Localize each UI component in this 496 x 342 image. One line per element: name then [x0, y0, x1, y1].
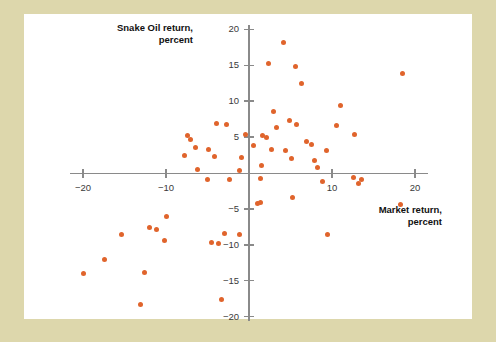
scatter-point	[398, 202, 403, 207]
x-axis-tick-label: 10	[312, 182, 352, 193]
y-axis-tick	[244, 65, 254, 67]
scatter-point	[195, 167, 200, 172]
y-axis-title-line2: percent	[81, 34, 193, 46]
scatter-point	[164, 214, 169, 219]
y-axis-tick-label: −5	[197, 203, 239, 214]
x-axis-tick-label: −20	[63, 182, 103, 193]
x-axis-title-line2: percent	[338, 216, 442, 228]
scatter-plot-canvas: −20−1010202015105−5−10−15−20Snake Oil re…	[24, 14, 472, 319]
scatter-point	[315, 165, 320, 170]
x-axis-title-line1: Market return,	[338, 204, 442, 216]
scatter-point	[119, 232, 124, 237]
y-axis-tick-label: −20	[197, 311, 239, 322]
scatter-point	[325, 232, 330, 237]
scatter-point	[222, 231, 227, 236]
y-axis-title: Snake Oil return,percent	[81, 22, 193, 46]
scatter-point	[274, 125, 279, 130]
scatter-point	[264, 135, 269, 140]
y-axis-tick	[244, 208, 254, 210]
scatter-point	[239, 155, 244, 160]
scatter-point	[237, 168, 242, 173]
scatter-point	[293, 64, 298, 69]
scatter-point	[289, 156, 294, 161]
scatter-point	[338, 103, 343, 108]
x-axis-tick	[331, 169, 333, 178]
x-axis-tick-label: 20	[395, 182, 435, 193]
scatter-point	[334, 123, 339, 128]
y-axis-tick-label: 15	[197, 59, 239, 70]
plot-plate: −20−1010202015105−5−10−15−20Snake Oil re…	[24, 14, 472, 319]
scatter-point	[351, 175, 356, 180]
scatter-point	[188, 137, 193, 142]
y-axis-tick	[244, 100, 254, 102]
scatter-point	[147, 225, 152, 230]
scatter-point	[304, 139, 309, 144]
scatter-point	[294, 122, 299, 127]
figure-container: −20−1010202015105−5−10−15−20Snake Oil re…	[0, 0, 496, 342]
scatter-point	[352, 132, 357, 137]
y-axis-tick	[244, 280, 254, 282]
scatter-point	[219, 297, 224, 302]
scatter-point	[287, 118, 292, 123]
scatter-point	[102, 257, 107, 262]
scatter-point	[290, 195, 295, 200]
scatter-point	[356, 181, 361, 186]
scatter-point	[214, 121, 219, 126]
scatter-point	[182, 153, 187, 158]
scatter-point	[216, 241, 221, 246]
scatter-point	[299, 81, 304, 86]
x-axis-tick	[82, 169, 84, 178]
y-axis-tick-label: 10	[197, 95, 239, 106]
scatter-point	[266, 61, 271, 66]
y-axis-tick-label: 5	[197, 131, 239, 142]
scatter-point	[227, 177, 232, 182]
y-axis-line	[248, 25, 250, 321]
scatter-point	[193, 145, 198, 150]
scatter-point	[259, 163, 264, 168]
x-axis-title: Market return,percent	[338, 204, 442, 228]
scatter-point	[224, 122, 229, 127]
scatter-point	[206, 147, 211, 152]
x-axis-tick	[165, 169, 167, 178]
scatter-point	[162, 238, 167, 243]
scatter-point	[258, 200, 263, 205]
scatter-point	[251, 143, 256, 148]
scatter-point	[138, 302, 143, 307]
scatter-point	[81, 271, 86, 276]
scatter-point	[154, 227, 159, 232]
y-axis-title-line1: Snake Oil return,	[81, 22, 193, 34]
y-axis-tick	[244, 244, 254, 246]
scatter-point	[205, 177, 210, 182]
scatter-point	[271, 109, 276, 114]
scatter-point	[400, 71, 405, 76]
scatter-point	[312, 158, 317, 163]
y-axis-tick	[244, 316, 254, 318]
y-axis-tick-label: −15	[197, 275, 239, 286]
scatter-point	[324, 148, 329, 153]
scatter-point	[142, 270, 147, 275]
scatter-point	[281, 40, 286, 45]
scatter-point	[212, 154, 217, 159]
x-axis-tick-label: −10	[146, 182, 186, 193]
y-axis-tick	[244, 29, 254, 31]
scatter-point	[269, 147, 274, 152]
x-axis-tick	[414, 169, 416, 178]
scatter-point	[309, 142, 314, 147]
scatter-point	[258, 176, 263, 181]
y-axis-tick-label: 20	[197, 23, 239, 34]
scatter-point	[237, 232, 242, 237]
scatter-point	[283, 148, 288, 153]
